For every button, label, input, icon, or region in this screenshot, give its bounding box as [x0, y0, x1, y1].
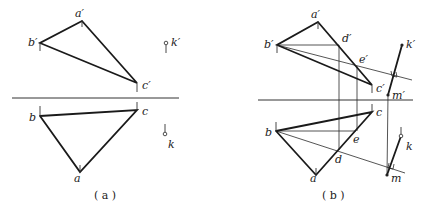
- label-k: k: [168, 138, 175, 151]
- label-b: b: [265, 126, 272, 139]
- caption-a: ( a ): [94, 189, 116, 202]
- label-e: e: [353, 133, 360, 146]
- label-c-prime: c′: [376, 82, 385, 95]
- panel-a: a′ b′ c′ k′ b c a k ( a ): [12, 7, 181, 202]
- label-k: k: [406, 140, 413, 153]
- label-a: a: [74, 172, 81, 185]
- label-m: m: [391, 172, 401, 185]
- top-triangle-a: [40, 102, 137, 172]
- label-b-prime: b′: [264, 38, 274, 51]
- label-a: a: [310, 172, 317, 185]
- label-d-prime: d′: [342, 32, 352, 45]
- label-a-prime: a′: [311, 8, 321, 21]
- construction-lines: [276, 45, 412, 175]
- point-k-a: [163, 124, 167, 136]
- label-m-prime: m′: [392, 89, 405, 102]
- label-k-prime: k′: [171, 36, 181, 49]
- label-d: d: [335, 153, 342, 166]
- label-a-prime: a′: [75, 7, 85, 20]
- label-c-prime: c′: [142, 79, 151, 92]
- label-b-prime: b′: [28, 36, 38, 49]
- label-k-prime: k′: [406, 38, 416, 51]
- point-k-prime-a: [164, 41, 168, 53]
- diagram-svg: a′ b′ c′ k′ b c a k ( a ): [0, 0, 427, 213]
- projection-diagram: a′ b′ c′ k′ b c a k ( a ): [0, 0, 427, 213]
- caption-b: ( b ): [322, 189, 345, 202]
- label-c: c: [376, 106, 382, 119]
- label-e-prime: e′: [359, 53, 369, 66]
- label-c: c: [142, 105, 148, 118]
- label-b: b: [29, 111, 36, 124]
- panel-b: a′ b′ d′ e′ c′ k′ m′ b c e d a k m ( b ): [258, 8, 416, 202]
- front-triangle-a: [40, 21, 137, 92]
